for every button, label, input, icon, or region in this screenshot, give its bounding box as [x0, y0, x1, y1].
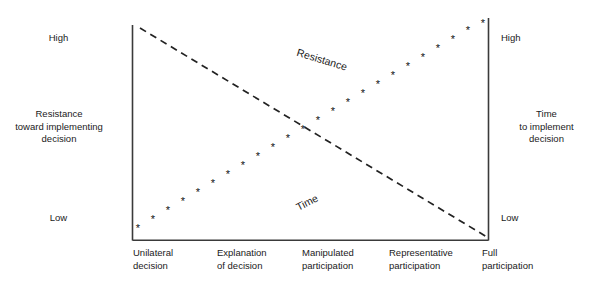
right-axis-low-label: Low — [501, 212, 571, 224]
svg-text:*: * — [286, 132, 291, 144]
svg-text:*: * — [466, 24, 471, 36]
svg-text:*: * — [136, 222, 141, 234]
category-label-representative-participation: Representative participation — [389, 247, 453, 272]
svg-text:*: * — [241, 159, 246, 171]
category-label-explanation-of-decision: Explanation of decision — [217, 247, 267, 272]
svg-text:*: * — [316, 114, 321, 126]
svg-text:*: * — [211, 177, 216, 189]
category-axis-labels: Unilateral decision Explanation of decis… — [131, 247, 551, 279]
svg-text:*: * — [406, 60, 411, 72]
category-label-manipulated-participation: Manipulated participation — [302, 247, 354, 272]
left-axis-high-label: High — [0, 32, 117, 44]
svg-text:*: * — [301, 123, 306, 135]
svg-text:*: * — [421, 51, 426, 63]
left-axis-caption: Resistance toward implementing decision — [0, 108, 118, 146]
category-label-unilateral-decision: Unilateral decision — [133, 247, 173, 272]
right-axis-caption: Time to implement decision — [500, 108, 593, 146]
svg-text:*: * — [376, 78, 381, 90]
svg-text:*: * — [166, 204, 171, 216]
chart-figure: High Resistance toward implementing deci… — [0, 0, 593, 285]
svg-text:*: * — [226, 168, 231, 180]
left-axis-low-label: Low — [0, 212, 117, 224]
category-label-full-participation: Full participation — [482, 247, 533, 272]
svg-text:*: * — [331, 105, 336, 117]
svg-text:*: * — [361, 87, 366, 99]
svg-text:*: * — [391, 69, 396, 81]
svg-text:*: * — [436, 42, 441, 54]
right-axis-high-label: High — [501, 32, 571, 44]
svg-text:*: * — [181, 195, 186, 207]
svg-text:*: * — [271, 141, 276, 153]
svg-text:*: * — [151, 213, 156, 225]
svg-text:*: * — [481, 17, 486, 29]
svg-text:*: * — [346, 96, 351, 108]
svg-text:*: * — [451, 33, 456, 45]
svg-text:*: * — [196, 186, 201, 198]
plot-area: * * * * * * * * * * * * * * * * * * * * — [131, 16, 490, 241]
svg-text:*: * — [256, 150, 261, 162]
